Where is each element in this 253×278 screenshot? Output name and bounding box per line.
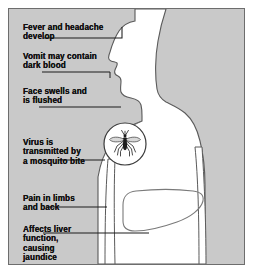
label-face-swelling: Face swells and is flushed <box>23 87 87 106</box>
label-liver-jaundice: Affects liver function, causing jaundice <box>23 225 71 263</box>
label-limb-pain: Pain in limbs and back <box>23 194 75 213</box>
mosquito-inset <box>104 123 146 165</box>
label-virus-transmission: Virus is transmitted by a mosquito bite <box>23 138 85 166</box>
label-vomit: Vomit may contain dark blood <box>23 52 97 71</box>
left-arm <box>105 159 115 264</box>
label-fever: Fever and headache develop <box>23 23 104 42</box>
diagram-stage: Fever and headache develop Vomit may con… <box>0 0 253 278</box>
diagram-panel: Fever and headache develop Vomit may con… <box>8 8 245 265</box>
